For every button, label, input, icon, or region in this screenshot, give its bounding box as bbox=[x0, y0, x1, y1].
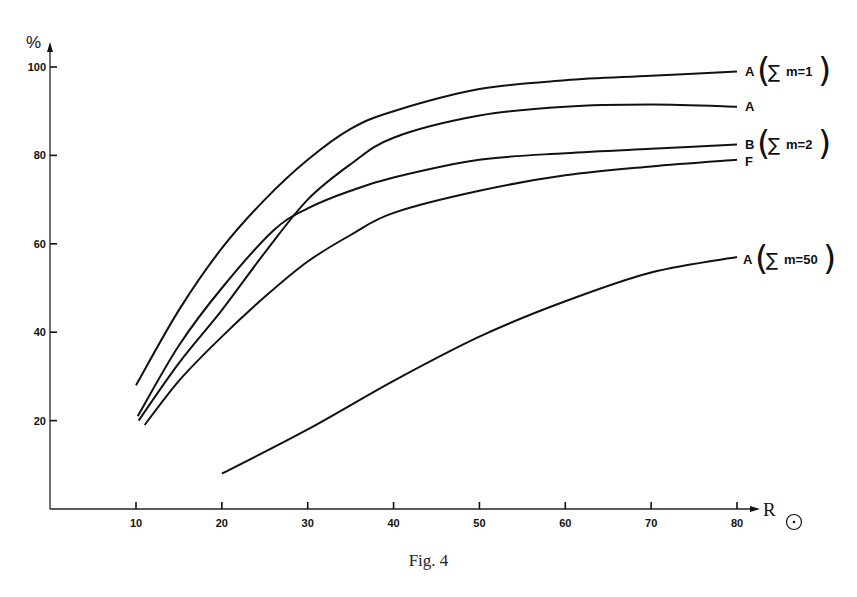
curve-label-a: A bbox=[745, 99, 755, 114]
svg-text:): ) bbox=[823, 238, 836, 278]
curve-label-a-m1: A ( ∑ m=1 ) bbox=[745, 50, 831, 90]
svg-text:): ) bbox=[818, 123, 831, 163]
svg-text:): ) bbox=[818, 50, 831, 90]
svg-text:B: B bbox=[745, 137, 754, 152]
svg-text:A: A bbox=[745, 64, 755, 79]
x-tick-label: 50 bbox=[473, 517, 485, 529]
y-axis-arrow-icon bbox=[47, 42, 53, 52]
curve-a-m50 bbox=[222, 257, 737, 474]
x-tick-label: 10 bbox=[130, 517, 142, 529]
y-tick-label: 20 bbox=[34, 415, 46, 427]
svg-text:∑: ∑ bbox=[768, 134, 780, 155]
sun-symbol-icon bbox=[787, 515, 802, 530]
svg-text:A: A bbox=[745, 99, 755, 114]
x-ticks: 1020304050607080 bbox=[130, 502, 743, 529]
curve-a bbox=[139, 105, 737, 421]
y-ticks: 20406080100 bbox=[28, 61, 57, 427]
curve-b-m2 bbox=[138, 144, 737, 416]
curve-label-f: F bbox=[745, 154, 753, 169]
y-axis-label: % bbox=[26, 33, 41, 52]
curves bbox=[136, 71, 737, 473]
figure-caption: Fig. 4 bbox=[0, 551, 857, 571]
curve-f bbox=[145, 160, 737, 425]
y-tick-label: 40 bbox=[34, 326, 46, 338]
y-axis: % bbox=[26, 33, 53, 509]
curve-a-m1 bbox=[136, 71, 737, 385]
svg-text:m=2: m=2 bbox=[786, 137, 812, 152]
y-tick-label: 80 bbox=[34, 149, 46, 161]
y-tick-label: 100 bbox=[28, 61, 46, 73]
svg-text:∑: ∑ bbox=[766, 249, 778, 270]
x-axis-label: R bbox=[763, 499, 776, 520]
x-tick-label: 70 bbox=[645, 517, 657, 529]
x-axis-arrow-icon bbox=[750, 506, 760, 512]
x-axis: R bbox=[50, 499, 802, 530]
svg-text:∑: ∑ bbox=[768, 61, 780, 82]
chart: % R 20406080100 1020304050607080 A ( ∑ m… bbox=[0, 0, 857, 597]
curve-label-b-m2: B ( ∑ m=2 ) bbox=[745, 123, 831, 163]
svg-text:F: F bbox=[745, 154, 753, 169]
curve-labels: A ( ∑ m=1 ) A B ( ∑ m=2 ) F A ( ∑ m=50 ) bbox=[743, 50, 836, 278]
curve-label-a-m50: A ( ∑ m=50 ) bbox=[743, 238, 836, 278]
x-tick-label: 60 bbox=[559, 517, 571, 529]
x-tick-label: 20 bbox=[216, 517, 228, 529]
x-tick-label: 40 bbox=[387, 517, 399, 529]
svg-text:m=1: m=1 bbox=[786, 64, 812, 79]
x-tick-label: 30 bbox=[302, 517, 314, 529]
x-tick-label: 80 bbox=[731, 517, 743, 529]
y-tick-label: 60 bbox=[34, 238, 46, 250]
svg-text:A: A bbox=[743, 252, 753, 267]
svg-text:m=50: m=50 bbox=[784, 252, 818, 267]
